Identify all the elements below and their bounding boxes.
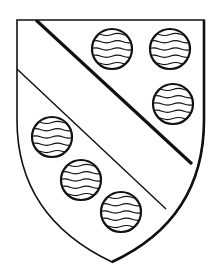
fountain-roundel	[148, 29, 192, 69]
fountain-roundel	[90, 29, 134, 69]
fountain-roundel	[99, 192, 143, 232]
fountain-roundel	[151, 84, 195, 124]
fountain-roundel	[30, 117, 74, 157]
fountain-roundel	[59, 160, 103, 200]
shield-figure	[0, 0, 219, 278]
